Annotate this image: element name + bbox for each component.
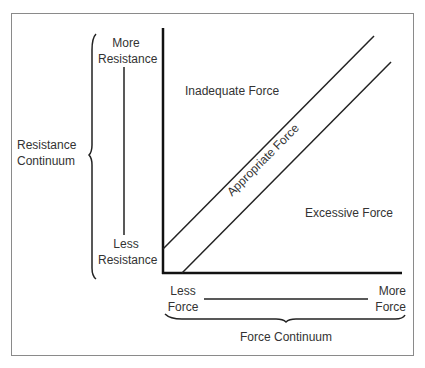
resistance-continuum-line1: Resistance — [17, 137, 76, 153]
diagram-graphics — [0, 0, 425, 368]
resistance-continuum-label: Resistance Continuum — [17, 137, 76, 169]
more-resistance-label: More Resistance — [98, 35, 154, 67]
more-force-line2: Force — [370, 299, 406, 315]
less-resistance-line1: Less — [98, 236, 154, 252]
resistance-continuum-line2: Continuum — [17, 153, 76, 169]
excessive-force-label: Excessive Force — [305, 205, 393, 221]
more-resistance-line1: More — [98, 35, 154, 51]
less-resistance-line2: Resistance — [98, 252, 154, 268]
less-force-label: Less Force — [165, 283, 201, 315]
resistance-brace — [89, 34, 96, 279]
inadequate-force-label: Inadequate Force — [185, 83, 279, 99]
more-force-line1: More — [370, 283, 406, 299]
force-continuum-label: Force Continuum — [240, 329, 332, 345]
less-force-line2: Force — [165, 299, 201, 315]
more-force-label: More Force — [370, 283, 406, 315]
less-force-line1: Less — [165, 283, 201, 299]
more-resistance-line2: Resistance — [98, 51, 154, 67]
less-resistance-label: Less Resistance — [98, 236, 154, 268]
force-brace — [165, 314, 405, 322]
